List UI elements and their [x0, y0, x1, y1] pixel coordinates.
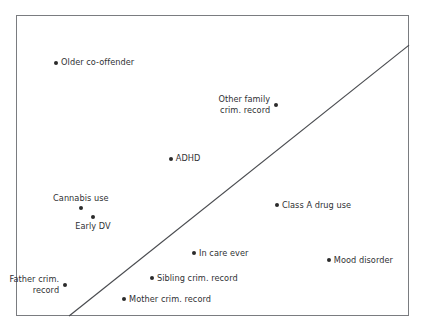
point-label: Mood disorder — [334, 255, 393, 265]
point-label: ADHD — [176, 153, 201, 163]
point-label-line: Early DV — [75, 221, 110, 231]
point-label-line: Other family — [218, 94, 270, 104]
point-label-line: Older co-offender — [61, 57, 134, 67]
point-label-line: Sibling crim. record — [157, 273, 238, 283]
point-label: Sibling crim. record — [157, 273, 238, 283]
plot-area: Older co-offenderOther familycrim. recor… — [16, 15, 409, 316]
point-label-line: Mood disorder — [334, 255, 393, 265]
point-label: Older co-offender — [61, 57, 134, 67]
point-label-line: In care ever — [199, 248, 248, 258]
diagonal-reference-line — [69, 45, 409, 316]
point-label: Father crim.record — [9, 274, 59, 294]
point-label: Cannabis use — [53, 193, 109, 203]
point-label-line: Mother crim. record — [129, 294, 211, 304]
point-label-line: ADHD — [176, 153, 201, 163]
point-label-line: record — [9, 285, 59, 295]
point-label-line: crim. record — [218, 105, 270, 115]
point-label: Class A drug use — [282, 200, 351, 210]
point-label: Early DV — [75, 221, 110, 231]
point-label: Other familycrim. record — [218, 94, 270, 114]
point-label: Mother crim. record — [129, 294, 211, 304]
scatter-plot-figure: Older co-offenderOther familycrim. recor… — [0, 0, 422, 331]
point-label-line: Class A drug use — [282, 200, 351, 210]
point-label-line: Cannabis use — [53, 193, 109, 203]
point-label-line: Father crim. — [9, 274, 59, 284]
point-label: In care ever — [199, 248, 248, 258]
